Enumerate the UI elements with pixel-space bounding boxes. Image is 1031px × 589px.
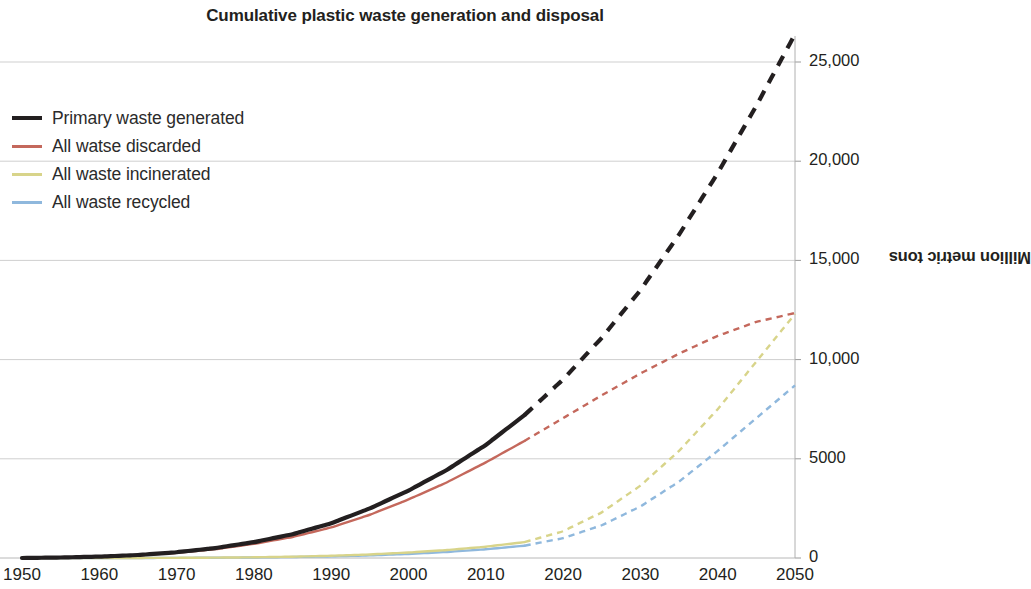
x-tick-label: 1980	[235, 565, 273, 585]
series-line-solid	[22, 415, 524, 558]
legend-label-all-waste-recycled: All waste recycled	[52, 192, 190, 213]
legend-item-all-waste-discarded: All watse discarded	[12, 132, 312, 160]
y-axis-title-text: Million metric tons	[889, 248, 1031, 267]
y-tick-label: 20,000	[809, 150, 859, 169]
legend-swatch-primary-waste-generated	[12, 116, 42, 120]
x-tick-label: 1970	[158, 565, 196, 585]
legend-swatch-all-waste-discarded	[12, 145, 42, 148]
series-line-dashed	[524, 385, 795, 545]
y-tick-label: 15,000	[809, 249, 859, 268]
y-tick-label: 5000	[809, 448, 846, 467]
y-tick-label: 0	[809, 547, 818, 566]
chart-legend: Primary waste generated All watse discar…	[12, 104, 312, 216]
x-tick-label: 1960	[80, 565, 118, 585]
legend-label-all-waste-discarded: All watse discarded	[52, 136, 201, 157]
legend-item-all-waste-incinerated: All waste incinerated	[12, 160, 312, 188]
legend-swatch-all-waste-incinerated	[12, 173, 42, 176]
x-tick-label: 2020	[544, 565, 582, 585]
series-line-dashed	[524, 313, 795, 441]
legend-label-primary-waste-generated: Primary waste generated	[52, 108, 244, 129]
x-tick-label: 2030	[621, 565, 659, 585]
legend-item-primary-waste-generated: Primary waste generated	[12, 104, 312, 132]
x-tick-label: 1950	[3, 565, 41, 585]
legend-swatch-all-waste-recycled	[12, 201, 42, 204]
series-line-dashed	[524, 314, 795, 542]
y-axis-title: Million metric tons	[889, 248, 1031, 267]
y-tick-label: 10,000	[809, 349, 859, 368]
x-tick-label: 2010	[467, 565, 505, 585]
x-tick-label: 2050	[776, 565, 814, 585]
x-tick-label: 2000	[390, 565, 428, 585]
legend-label-all-waste-incinerated: All waste incinerated	[52, 164, 210, 185]
legend-item-all-waste-recycled: All waste recycled	[12, 188, 312, 216]
x-tick-label: 1990	[312, 565, 350, 585]
series-line-dashed	[524, 34, 795, 415]
x-tick-label: 2040	[699, 565, 737, 585]
y-tick-label: 25,000	[809, 51, 859, 70]
